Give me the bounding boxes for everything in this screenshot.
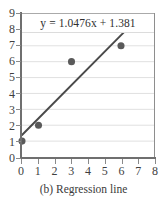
y-tick-label: 9 [1,7,15,19]
y-tick-label: 8 [1,23,15,35]
data-point [35,122,42,129]
x-tick-label: 5 [98,165,112,177]
data-point [117,42,124,49]
equation-annotation: y = 1.0476x + 1.381 [22,14,154,33]
y-tick-label: 6 [1,55,15,67]
x-tick-label: 2 [48,165,62,177]
y-tick [16,93,21,94]
y-tick-label: 1 [1,136,15,148]
data-point [68,58,75,65]
regression-figure: y = 1.0476x + 1.381 0123456789 012345678… [0,0,167,205]
y-tick [16,125,21,126]
y-tick-label: 5 [1,71,15,83]
y-tick-label: 0 [1,152,15,164]
x-tick-label: 8 [148,165,162,177]
x-tick-label: 3 [64,165,78,177]
y-tick [16,109,21,110]
y-tick [16,29,21,30]
x-tick-label: 4 [81,165,95,177]
y-tick [16,77,21,78]
y-tick [16,45,21,46]
y-tick-label: 3 [1,104,15,116]
y-tick [16,13,21,14]
y-tick-label: 7 [1,39,15,51]
data-points [22,14,154,157]
y-tick-label: 2 [1,120,15,132]
y-tick [16,61,21,62]
y-axis [20,12,22,159]
plot-area [21,13,155,158]
figure-caption: (b) Regression line [0,183,167,195]
y-tick-label: 4 [1,88,15,100]
x-tick-label: 7 [131,165,145,177]
x-tick-label: 0 [14,165,28,177]
x-tick-label: 6 [115,165,129,177]
equation-text: y = 1.0476x + 1.381 [40,17,135,29]
y-tick [16,141,21,142]
x-tick-label: 1 [31,165,45,177]
